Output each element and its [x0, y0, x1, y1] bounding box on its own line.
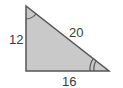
right-triangle	[26, 6, 109, 71]
hypotenuse-label: 20	[69, 26, 83, 39]
vertical-leg-label: 12	[9, 33, 23, 46]
horizontal-leg-label: 16	[62, 75, 76, 88]
